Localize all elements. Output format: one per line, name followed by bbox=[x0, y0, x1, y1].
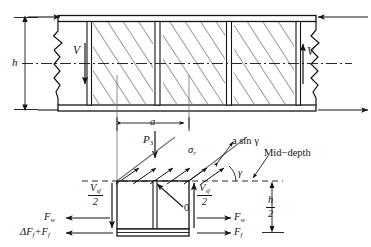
fbd-web-box bbox=[117, 181, 189, 236]
tension-band-boundaries bbox=[117, 137, 247, 181]
force-label-fw-left: Fw bbox=[44, 212, 55, 223]
shear-right-fraction: Vsf 2 bbox=[197, 183, 212, 208]
force-label-ff-right: Ff bbox=[234, 227, 242, 238]
origin-label: 0 bbox=[184, 203, 189, 214]
girder-elevation bbox=[14, 16, 368, 186]
panel-width-label: a bbox=[150, 117, 155, 128]
gamma-angle-arc bbox=[229, 166, 236, 181]
applied-load-label: P3 bbox=[143, 134, 153, 147]
force-label-fw-right: Fw bbox=[234, 212, 245, 223]
bottom-flange bbox=[58, 105, 316, 111]
top-flange bbox=[58, 16, 316, 22]
a-sin-gamma-label: a sin γ bbox=[232, 136, 259, 147]
force-label-ff-left: ΔFf+Ff bbox=[20, 227, 50, 238]
a-sin-gamma-dimension bbox=[218, 142, 233, 162]
origin-leader bbox=[157, 184, 183, 207]
tension-stress-label: σr bbox=[188, 145, 196, 156]
mid-depth-label: Mid−depth bbox=[264, 148, 311, 159]
mid-depth-leader bbox=[253, 156, 268, 178]
shear-label-right: V bbox=[307, 46, 314, 58]
shear-label-left: V bbox=[73, 45, 80, 57]
shear-left-fraction: Vsf 2 bbox=[88, 183, 103, 208]
gamma-angle-label: γ bbox=[238, 168, 242, 179]
height-label: h bbox=[12, 57, 18, 68]
half-depth-fraction: h 2 bbox=[266, 195, 275, 219]
